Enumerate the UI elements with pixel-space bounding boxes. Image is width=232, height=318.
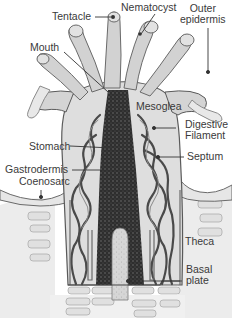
tentacle-tip bbox=[180, 34, 194, 46]
label-basal-plate: Basal plate bbox=[186, 264, 212, 286]
tentacle-tip bbox=[37, 54, 49, 64]
label-nematocyst: Nematocyst bbox=[121, 2, 176, 13]
label-theca: Theca bbox=[185, 236, 214, 247]
label-digestive-filament: Digestive Filament bbox=[185, 119, 228, 141]
label-outer-epidermis: Outer epidermis bbox=[180, 3, 226, 25]
label-coenosarc: Coenosarc bbox=[19, 176, 70, 187]
label-gastrodermis: Gastrodermis bbox=[5, 164, 68, 175]
tentacle-tip bbox=[69, 25, 83, 37]
label-tentacle: Tentacle bbox=[52, 11, 91, 22]
label-mouth: Mouth bbox=[30, 42, 59, 53]
label-mesoglea: Mesoglea bbox=[136, 101, 182, 112]
columella bbox=[112, 228, 128, 300]
label-stomach: Stomach bbox=[29, 141, 70, 152]
label-septum: Septum bbox=[187, 151, 223, 162]
